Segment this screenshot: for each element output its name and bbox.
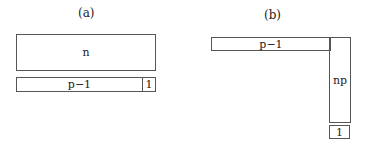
panel-a-label: (a) <box>78 6 95 20</box>
block-n: n <box>16 34 156 71</box>
block-p-minus-1: p−1 <box>16 77 143 92</box>
block-np: np <box>329 37 351 123</box>
panel-b-label: (b) <box>264 8 281 22</box>
block-p-minus-1: p−1 <box>211 37 331 51</box>
block-1: 1 <box>142 77 156 92</box>
block-1: 1 <box>329 125 350 139</box>
